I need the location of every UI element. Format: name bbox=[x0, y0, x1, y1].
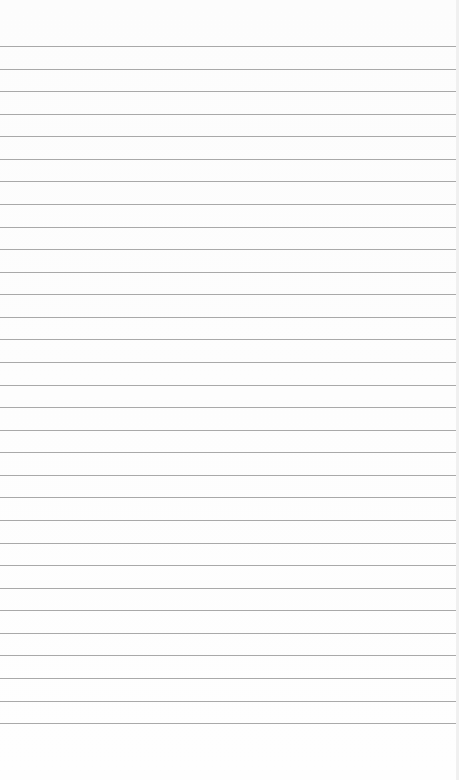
ruled-line bbox=[0, 655, 456, 656]
ruled-line bbox=[0, 543, 456, 544]
ruled-line bbox=[0, 475, 456, 476]
ruled-line bbox=[0, 678, 456, 679]
ruled-line bbox=[0, 181, 456, 182]
ruled-line bbox=[0, 249, 456, 250]
ruled-line bbox=[0, 317, 456, 318]
ruled-line bbox=[0, 610, 456, 611]
ruled-line bbox=[0, 227, 456, 228]
ruled-line bbox=[0, 497, 456, 498]
ruled-line bbox=[0, 701, 456, 702]
ruled-line bbox=[0, 114, 456, 115]
ruled-line bbox=[0, 430, 456, 431]
ruled-line bbox=[0, 159, 456, 160]
ruled-line bbox=[0, 362, 456, 363]
ruled-line bbox=[0, 272, 456, 273]
ruled-line bbox=[0, 565, 456, 566]
ruled-line bbox=[0, 91, 456, 92]
ruled-line bbox=[0, 46, 456, 47]
ruled-line bbox=[0, 385, 456, 386]
ruled-line bbox=[0, 294, 456, 295]
ruled-line bbox=[0, 204, 456, 205]
ruled-line bbox=[0, 723, 456, 724]
ruled-line bbox=[0, 588, 456, 589]
ruled-line bbox=[0, 633, 456, 634]
ruled-line bbox=[0, 520, 456, 521]
ruled-line bbox=[0, 69, 456, 70]
ruled-line bbox=[0, 407, 456, 408]
ruled-line bbox=[0, 136, 456, 137]
lined-paper bbox=[0, 0, 459, 780]
ruled-line bbox=[0, 452, 456, 453]
ruled-line bbox=[0, 339, 456, 340]
